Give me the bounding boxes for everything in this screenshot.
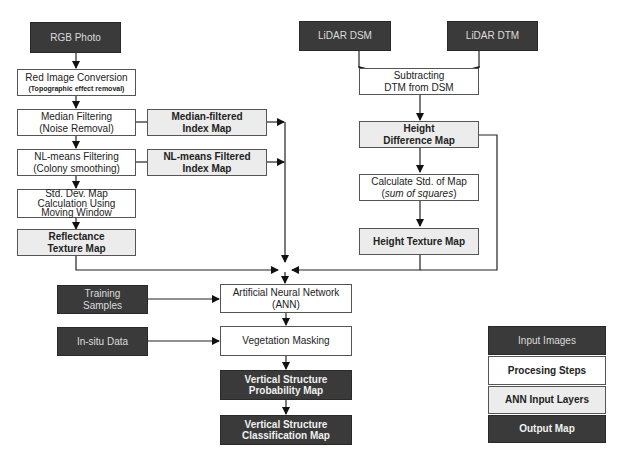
subtracting-node: Subtracting DTM from DSM	[359, 68, 479, 95]
legend-ann-label: ANN Input Layers	[505, 394, 589, 406]
nlmeans-filtered-line2: Index Map	[183, 163, 232, 175]
subtracting-line1: Subtracting	[394, 70, 445, 82]
median-filtering-node: Median Filtering (Noise Removal)	[17, 109, 136, 136]
red-image-conversion-node: Red Image Conversion (Topographic effect…	[17, 69, 136, 96]
classification-line2: Classification Map	[242, 430, 330, 442]
ann-line1: Artificial Neural Network	[233, 287, 340, 299]
ann-line2: (ANN)	[272, 299, 300, 311]
probability-map-node: Vertical Structure Probability Map	[220, 370, 352, 400]
nlmeans-filtering-line1: NL-means Filtering	[34, 151, 118, 163]
vegetation-masking-label: Vegetation Masking	[242, 335, 329, 347]
legend-processing-steps: Procesing Steps	[488, 356, 606, 385]
legend-output-label: Output Map	[519, 423, 575, 435]
height-texture-label: Height Texture Map	[373, 236, 465, 248]
vegetation-masking-node: Vegetation Masking	[220, 326, 352, 356]
training-line1: Training	[85, 288, 121, 300]
std-dev-line3: Moving Window	[41, 208, 112, 218]
lidar-dsm-node: LiDAR DSM	[299, 21, 391, 51]
nlmeans-filtered-line1: NL-means Filtered	[163, 151, 250, 163]
median-filtered-line2: Index Map	[183, 123, 232, 135]
training-line2: Samples	[83, 300, 122, 312]
insitu-data-node: In-situ Data	[57, 327, 148, 356]
legend-ann-input-layers: ANN Input Layers	[488, 386, 606, 414]
sum-of-squares-text: sum of squares	[385, 188, 453, 199]
lidar-dsm-label: LiDAR DSM	[318, 30, 372, 42]
classification-map-node: Vertical Structure Classification Map	[220, 415, 352, 445]
nlmeans-filtering-line2: (Colony smoothing)	[33, 163, 120, 175]
rgb-photo-node: RGB Photo	[30, 22, 121, 53]
reflectance-line2: Texture Map	[47, 243, 105, 255]
legend-processing-label: Procesing Steps	[508, 365, 586, 377]
reflectance-texture-map-node: Reflectance Texture Map	[17, 229, 136, 256]
reflectance-line1: Reflectance	[48, 231, 104, 243]
paren-close: )	[453, 188, 456, 199]
nlmeans-filtering-node: NL-means Filtering (Colony smoothing)	[17, 149, 136, 176]
legend-input-label: Input Images	[518, 335, 576, 347]
classification-line1: Vertical Structure	[245, 419, 328, 431]
calculate-std-line1: Calculate Std. of Map	[371, 176, 467, 188]
median-filtering-line1: Median Filtering	[41, 111, 112, 123]
calculate-std-node: Calculate Std. of Map (sum of squares)	[359, 174, 479, 201]
lidar-dtm-node: LiDAR DTM	[447, 21, 538, 51]
legend: Input Images Procesing Steps ANN Input L…	[488, 326, 606, 443]
calculate-std-line2: (sum of squares)	[381, 188, 456, 200]
median-filtered-line1: Median-filtered	[171, 111, 242, 123]
std-dev-map-node: Std. Dev. Map Calculation Using Moving W…	[17, 189, 136, 218]
rgb-photo-label: RGB Photo	[50, 32, 101, 44]
training-samples-node: Training Samples	[57, 285, 148, 314]
red-image-line1: Red Image Conversion	[25, 72, 127, 84]
height-difference-map-node: Height Difference Map	[359, 121, 479, 148]
median-filtered-map-node: Median-filtered Index Map	[147, 109, 267, 136]
subtracting-line2: DTM from DSM	[384, 82, 453, 94]
ann-node: Artificial Neural Network (ANN)	[220, 284, 352, 313]
median-filtering-line2: (Noise Removal)	[39, 123, 113, 135]
legend-input-images: Input Images	[488, 326, 606, 355]
nlmeans-filtered-map-node: NL-means Filtered Index Map	[147, 149, 267, 176]
red-image-line2: (Topographic effect removal)	[29, 84, 125, 93]
probability-line1: Vertical Structure	[245, 374, 328, 386]
height-difference-line1: Height	[403, 123, 434, 135]
probability-line2: Probability Map	[249, 385, 323, 397]
height-texture-map-node: Height Texture Map	[359, 228, 479, 255]
lidar-dtm-label: LiDAR DTM	[466, 30, 519, 42]
height-difference-line2: Difference Map	[383, 135, 455, 147]
legend-output-map: Output Map	[488, 415, 606, 443]
insitu-label: In-situ Data	[77, 336, 128, 348]
